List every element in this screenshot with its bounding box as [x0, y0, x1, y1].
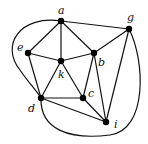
node-label-b: b [98, 56, 105, 69]
node-a [58, 18, 64, 24]
node-label-a: a [58, 4, 65, 17]
edge-a-g [61, 21, 129, 29]
edge-k-b [61, 53, 94, 61]
node-label-g: g [127, 11, 134, 24]
graph-diagram: agebkcdi [0, 0, 148, 144]
edge-e-d [28, 53, 41, 98]
node-label-c: c [88, 87, 94, 100]
node-g [126, 26, 132, 32]
node-c [80, 95, 86, 101]
node-label-d: d [28, 102, 35, 115]
node-label-e: e [17, 41, 24, 54]
edge-e-k [28, 53, 61, 61]
edge-d-i [41, 98, 106, 122]
node-label-i: i [114, 118, 118, 131]
node-e [25, 50, 31, 56]
node-i [103, 119, 109, 125]
nodes-group [25, 18, 132, 125]
edge-a-e [28, 21, 61, 53]
node-d [38, 95, 44, 101]
edges-group [12, 20, 140, 136]
node-b [91, 50, 97, 56]
node-k [58, 58, 64, 64]
edge-a-b [61, 21, 94, 53]
node-label-k: k [58, 68, 65, 81]
